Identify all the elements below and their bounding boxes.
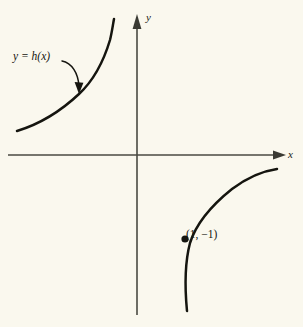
curve-upper-left-branch — [17, 19, 114, 131]
y-axis-arrowhead — [133, 14, 142, 29]
function-label: y = h(x) — [13, 51, 50, 63]
point-coordinate-label: (1, −1) — [186, 229, 217, 241]
graph-figure: y x y = h(x) (1, −1) — [0, 0, 303, 327]
y-axis-label: y — [146, 12, 151, 23]
x-axis-arrowhead — [273, 151, 286, 160]
x-axis-label: x — [288, 149, 293, 160]
